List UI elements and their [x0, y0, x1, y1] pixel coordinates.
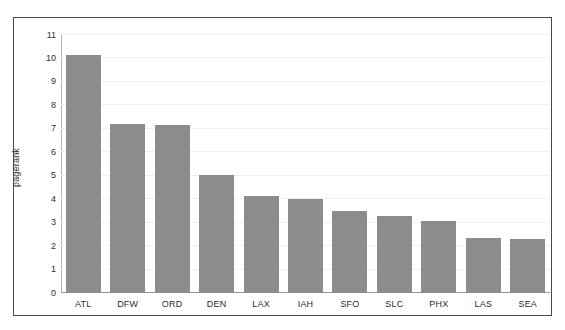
- x-axis-tick-label: LAX: [240, 299, 283, 309]
- bar-group[interactable]: IAH: [284, 35, 327, 293]
- y-axis-tick-label: 4: [51, 194, 56, 204]
- x-axis-tick-label: ORD: [151, 299, 194, 309]
- bar-group[interactable]: SLC: [373, 35, 416, 293]
- bar-group[interactable]: LAX: [240, 35, 283, 293]
- y-axis-title: pagerank: [9, 18, 23, 317]
- y-axis-tick-label: 8: [51, 100, 56, 110]
- x-axis-tick-label: DEN: [195, 299, 238, 309]
- y-axis-tick-label: 2: [51, 241, 56, 251]
- bar-group[interactable]: ATL: [62, 35, 105, 293]
- bar-group[interactable]: LAS: [462, 35, 505, 293]
- bar[interactable]: [199, 175, 234, 293]
- x-axis-tick-label: PHX: [417, 299, 460, 309]
- x-axis-tick-label: LAS: [462, 299, 505, 309]
- bar-group[interactable]: SEA: [506, 35, 549, 293]
- bar-group[interactable]: DFW: [106, 35, 149, 293]
- bar[interactable]: [155, 125, 190, 293]
- bar[interactable]: [421, 221, 456, 293]
- x-axis-tick-label: ATL: [62, 299, 105, 309]
- bar[interactable]: [510, 239, 545, 293]
- x-axis-tick-label: IAH: [284, 299, 327, 309]
- bar-group[interactable]: PHX: [417, 35, 460, 293]
- chart-figure-frame: pagerank 01234567891011 ATLDFWORDDENLAXI…: [13, 17, 552, 316]
- y-axis-tick-label: 11: [47, 30, 56, 40]
- bars-layer: ATLDFWORDDENLAXIAHSFOSLCPHXLASSEA: [61, 35, 550, 293]
- y-axis-tick-label: 6: [51, 147, 56, 157]
- x-axis-tick-label: SEA: [506, 299, 549, 309]
- x-axis-tick-label: SLC: [373, 299, 416, 309]
- bar-group[interactable]: ORD: [151, 35, 194, 293]
- bar[interactable]: [110, 124, 145, 293]
- bar[interactable]: [332, 211, 367, 293]
- bar-group[interactable]: DEN: [195, 35, 238, 293]
- bar[interactable]: [66, 55, 101, 293]
- y-axis-tick-label: 10: [46, 53, 56, 63]
- y-axis-tick-label: 9: [51, 76, 56, 86]
- y-axis-tick-label: 1: [51, 264, 56, 274]
- bar-group[interactable]: SFO: [328, 35, 371, 293]
- bar[interactable]: [466, 238, 501, 293]
- plot-area: 01234567891011 ATLDFWORDDENLAXIAHSFOSLCP…: [61, 35, 550, 293]
- y-axis-tick-label: 7: [51, 123, 56, 133]
- bar[interactable]: [377, 216, 412, 293]
- clipped-header-text: [0, 0, 565, 12]
- x-axis-tick-label: DFW: [106, 299, 149, 309]
- y-axis-tick-label: 5: [51, 170, 56, 180]
- bar[interactable]: [288, 199, 323, 293]
- x-axis-tick-label: SFO: [328, 299, 371, 309]
- bar[interactable]: [244, 196, 279, 293]
- y-axis-tick-label: 0: [51, 288, 56, 298]
- y-axis-tick-label: 3: [51, 217, 56, 227]
